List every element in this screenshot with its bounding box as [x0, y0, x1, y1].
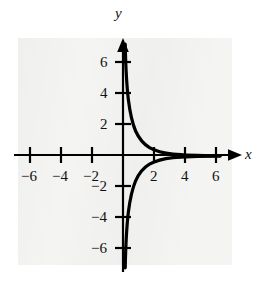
x-tick-label-6: 6: [212, 169, 220, 184]
x-tick-label-4: 4: [181, 169, 189, 184]
curve-branch-negative: [125, 156, 220, 268]
x-tick-label-neg4: −4: [52, 169, 68, 184]
y-tick-label-6: 6: [100, 55, 108, 70]
y-tick-label-2: 2: [100, 117, 108, 132]
x-axis-label: x: [245, 147, 252, 162]
y-tick-label-neg4: −4: [91, 210, 107, 225]
x-tick-label-2: 2: [150, 169, 158, 184]
y-axis-label: y: [115, 6, 122, 21]
y-tick-label-4: 4: [100, 86, 108, 101]
hyperbola-plot: [0, 0, 262, 284]
figure-canvas: x y −6 −4 −2 2 4 6 6 4 2 −2 −4 −6: [0, 0, 262, 284]
x-axis-arrowhead: [228, 149, 242, 161]
y-axis-arrowhead: [117, 38, 129, 52]
x-tick-label-neg6: −6: [21, 169, 37, 184]
y-tick-label-neg2: −2: [91, 179, 107, 194]
y-tick-label-neg6: −6: [91, 241, 107, 256]
curve-branch-positive: [125, 44, 220, 156]
